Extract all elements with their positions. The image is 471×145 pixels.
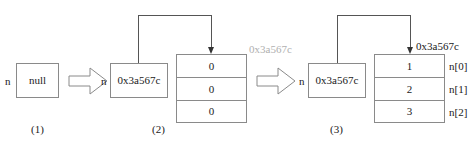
stage3-index-label-0: n[0]	[449, 61, 467, 72]
stage3-index-label-1: n[1]	[449, 84, 467, 95]
stage3-array-cell-0: 1	[374, 54, 445, 77]
stage2-caption: (2)	[152, 124, 165, 135]
stage2-array-cell-2: 0	[176, 100, 247, 123]
stage2-pointer-box: 0x3a567c	[110, 63, 168, 98]
stage2-array-cell-0: 0	[176, 54, 247, 77]
stage3-connector-horizontal	[337, 15, 410, 16]
stage3-connector-vertical-right	[410, 15, 411, 48]
stage3-array-cell-2: 3	[374, 100, 445, 123]
stage3-heap-address-label: 0x3a567c	[416, 41, 459, 52]
stage3-caption: (3)	[330, 124, 343, 135]
transition-arrow-2-to-3	[256, 66, 296, 96]
stage3-array-cell-1: 2	[374, 77, 445, 100]
stage2-connector-vertical-right	[211, 15, 212, 48]
stage3-connector-arrowhead	[407, 47, 413, 54]
stage2-connector-horizontal	[138, 15, 211, 16]
stage1-caption: (1)	[31, 124, 44, 135]
stage3-index-label-2: n[2]	[449, 107, 467, 118]
stage3-pointer-box: 0x3a567c	[308, 63, 366, 98]
stage1-pointer-box: null	[16, 63, 59, 98]
stage3-connector-vertical-left	[337, 15, 338, 63]
stage3-pointer-name: n	[299, 76, 305, 87]
stage2-array-cell-1: 0	[176, 77, 247, 100]
pointer-array-diagram: n null (1) n 0x3a567c 0x3a567c 0 0 0 (2)…	[0, 0, 471, 145]
stage2-connector-arrowhead	[208, 47, 214, 54]
stage1-pointer-name: n	[5, 76, 11, 87]
stage2-connector-vertical-left	[138, 15, 139, 63]
stage2-pointer-name: n	[101, 76, 107, 87]
stage2-heap-address-label: 0x3a567c	[249, 44, 292, 55]
